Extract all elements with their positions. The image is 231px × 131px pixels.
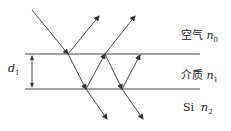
internal-reflect-1 (86, 54, 105, 89)
layer-label-air: 空气 n0 (181, 26, 218, 44)
layer-label-film: 介质 n1 (181, 66, 218, 84)
incident-ray (32, 10, 68, 54)
refracted-ray-2 (105, 54, 122, 89)
transmitted-ray-2 (122, 89, 143, 119)
refracted-ray-1 (68, 54, 86, 89)
internal-reflect-2 (122, 55, 140, 89)
reflected-ray-2 (105, 16, 135, 54)
transmitted-ray-1 (86, 89, 107, 119)
thin-film-diagram: d1 空气 n0 介质 n1 Si n2 (0, 0, 231, 131)
thickness-label: d1 (8, 62, 20, 77)
layer-label-si: Si n2 (183, 101, 213, 116)
reflected-ray-1 (68, 16, 99, 54)
